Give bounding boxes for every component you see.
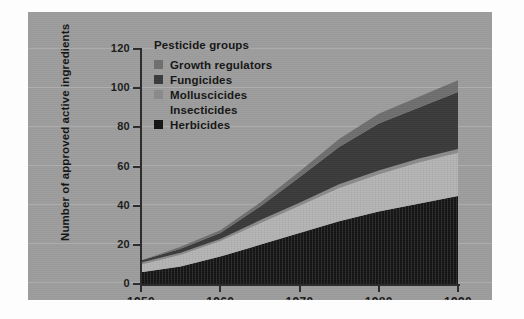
- chart-figure: 020406080100120 19501960197019801990 Num…: [0, 0, 524, 319]
- y-tick: [133, 126, 140, 128]
- y-tick-label: 60: [90, 160, 130, 172]
- legend-item-label: Molluscicides: [170, 89, 247, 101]
- y-axis-title: Number of approved active ingredients: [59, 31, 71, 241]
- x-tick-label: 1960: [190, 295, 250, 300]
- y-tick-label: 100: [90, 81, 130, 93]
- chart-panel: 020406080100120 19501960197019801990 Num…: [28, 12, 492, 300]
- x-tick: [378, 286, 380, 292]
- legend-item-label: Insecticides: [170, 104, 238, 116]
- y-tick: [133, 87, 140, 89]
- y-tick: [133, 283, 140, 285]
- x-tick-label: 1950: [111, 295, 171, 300]
- legend-item[interactable]: Fungicides: [146, 72, 336, 87]
- x-tick: [140, 286, 142, 292]
- legend-item[interactable]: Molluscicides: [146, 87, 336, 102]
- legend-swatch-icon: [154, 75, 163, 84]
- chart-legend: Pesticide groups Growth regulatorsFungic…: [146, 39, 336, 132]
- x-tick-label: 1970: [270, 295, 330, 300]
- y-tick-label: 120: [90, 42, 130, 54]
- y-axis-tick-labels: 020406080100120: [86, 12, 130, 300]
- legend-item-label: Herbicides: [170, 119, 230, 131]
- legend-item[interactable]: Growth regulators: [146, 57, 336, 72]
- x-tick-label: 1980: [349, 295, 409, 300]
- y-tick-label: 0: [90, 277, 130, 289]
- legend-swatch-icon: [154, 90, 163, 99]
- legend-title: Pesticide groups: [154, 39, 336, 51]
- legend-swatch-icon: [154, 120, 163, 129]
- x-tick: [457, 286, 459, 292]
- y-axis-line: [140, 48, 142, 286]
- x-tick-label: 1990: [428, 295, 488, 300]
- legend-swatch-icon: [154, 60, 163, 69]
- legend-item[interactable]: Insecticides: [146, 102, 336, 117]
- legend-item[interactable]: Herbicides: [146, 117, 336, 132]
- y-tick-label: 80: [90, 120, 130, 132]
- y-tick: [133, 166, 140, 168]
- legend-item-label: Growth regulators: [170, 59, 272, 71]
- y-tick: [133, 244, 140, 246]
- legend-swatch-icon: [154, 105, 163, 114]
- y-tick: [133, 205, 140, 207]
- y-tick: [133, 48, 140, 50]
- x-tick: [219, 286, 221, 292]
- x-tick: [299, 286, 301, 292]
- legend-items: Growth regulatorsFungicidesMolluscicides…: [146, 57, 336, 132]
- legend-item-label: Fungicides: [170, 74, 232, 86]
- y-tick-label: 20: [90, 238, 130, 250]
- y-tick-label: 40: [90, 199, 130, 211]
